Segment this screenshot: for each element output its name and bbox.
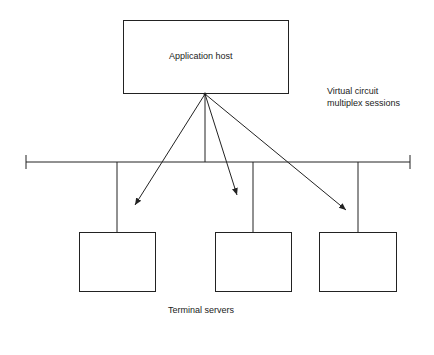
- application-host-label: Application host: [169, 51, 233, 62]
- terminal-server-box-1: [80, 233, 156, 292]
- terminal-server-box-3: [320, 233, 397, 292]
- session-arrow-3: [205, 94, 346, 210]
- terminal-servers-label: Terminal servers: [168, 305, 234, 316]
- junction-dot: [204, 93, 207, 96]
- session-arrow-2: [205, 94, 237, 195]
- sessions-label-line1: Virtual circuit: [327, 86, 378, 97]
- session-arrow-1: [135, 94, 205, 205]
- terminal-server-box-2: [216, 233, 292, 292]
- sessions-label-line2: multiplex sessions: [327, 98, 400, 109]
